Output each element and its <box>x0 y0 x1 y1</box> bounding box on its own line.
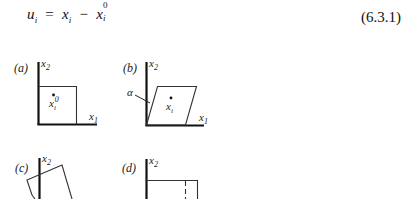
panel-b-sheared-parallelogram <box>147 87 197 126</box>
panel-b-alpha-leader <box>135 95 150 103</box>
panel-a-x2-label: x2 <box>40 57 50 72</box>
panel-c-label: (c) <box>15 161 28 175</box>
panel-b-point-label: xi <box>165 100 173 115</box>
panel-b-label: (b) <box>123 61 137 75</box>
panel-c: (c) x2 <box>15 152 72 199</box>
panel-a-label: (a) <box>14 61 28 75</box>
panel-b: (b) x2 x1 xi α <box>123 57 208 126</box>
panel-a-point-label: xi0 <box>48 95 59 112</box>
panel-a-undeformed-square <box>39 87 77 125</box>
panel-d-label: (d) <box>122 161 136 175</box>
panel-c-x2-label: x2 <box>41 152 51 167</box>
panel-b-alpha-label: α <box>127 86 133 98</box>
panel-a: (a) x2 x1 xi0 <box>14 57 98 125</box>
panel-b-point <box>170 97 173 100</box>
panel-c-rotated-square <box>27 165 72 199</box>
deformation-figure: (a) x2 x1 xi0 (b) x2 x1 xi α (c) x2 (d) … <box>0 0 419 199</box>
panel-a-x1-label: x1 <box>88 110 98 125</box>
panel-c-arrow-tip <box>32 195 35 199</box>
panel-d-x2-label: x2 <box>148 154 158 169</box>
panel-d-stretched-rectangle <box>147 181 198 200</box>
panel-d: (d) x2 <box>122 154 198 199</box>
panel-b-x2-label: x2 <box>148 57 158 72</box>
panel-b-x1-label: x1 <box>198 111 208 126</box>
